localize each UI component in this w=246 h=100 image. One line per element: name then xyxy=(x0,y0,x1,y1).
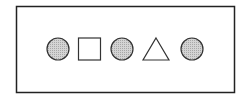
empty-square-2 xyxy=(79,38,101,60)
shaded-circle-5 xyxy=(181,38,203,60)
shaded-circle-3 xyxy=(111,38,133,60)
shape-sequence-diagram xyxy=(0,0,246,100)
shaded-circle-1 xyxy=(47,38,69,60)
